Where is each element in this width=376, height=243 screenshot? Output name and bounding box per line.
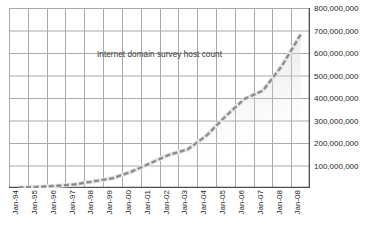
- x-tick-label-text: Jan-02: [157, 190, 177, 214]
- x-tick-label-text: Jan-94: [6, 190, 26, 214]
- data-series-line: [9, 8, 310, 188]
- y-tick-label: 100,000,000: [314, 161, 376, 170]
- y-tick-label: 800,000,000: [314, 4, 376, 13]
- x-tick-label-text: Jan-07: [251, 190, 271, 214]
- x-tick-label-text: Jan-03: [175, 190, 195, 214]
- x-tick-label: Jan-08: [291, 190, 311, 242]
- x-tick-label-text: Jan-97: [63, 190, 83, 214]
- x-tick-label-text: Jan-98: [81, 190, 101, 214]
- x-tick-label-text: Jan-08: [288, 190, 308, 214]
- x-tick-label-text: Jan-00: [119, 190, 139, 214]
- y-tick-label: 600,000,000: [314, 49, 376, 58]
- x-axis: Jan-94Jan-95Jan-96Jan-97Jan-98Jan-99Jan-…: [9, 190, 310, 243]
- x-tick-label-text: Jan-95: [25, 190, 45, 214]
- x-tick-label-text: Jan-01: [138, 190, 158, 214]
- y-tick-label: 700,000,000: [314, 26, 376, 35]
- y-tick-label: 400,000,000: [314, 94, 376, 103]
- series-shadow: [18, 35, 300, 188]
- y-axis: 100,000,000200,000,000300,000,000400,000…: [314, 0, 376, 243]
- chart-container: Internet domain survey host count 100,00…: [0, 0, 376, 243]
- y-tick-label: 500,000,000: [314, 71, 376, 80]
- x-tick-label-text: Jan-04: [194, 190, 214, 214]
- x-tick-label-text: Jan-08: [270, 190, 290, 214]
- y-tick-label: 300,000,000: [314, 116, 376, 125]
- x-tick-label-text: Jan-05: [213, 190, 233, 214]
- plot-area: [9, 8, 310, 188]
- y-tick-label: 200,000,000: [314, 139, 376, 148]
- x-tick-label-text: Jan-06: [232, 190, 252, 214]
- x-tick-label-text: Jan-99: [100, 190, 120, 214]
- x-tick-label-text: Jan-96: [44, 190, 64, 214]
